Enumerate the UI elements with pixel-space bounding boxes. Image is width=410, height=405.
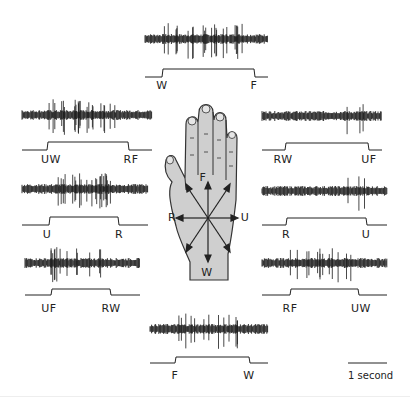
trace-left-2 [22,173,148,225]
movement-step-left-3 [25,289,140,295]
scale-bar-label: 1 second [348,370,393,381]
trace-right-3 [262,248,387,295]
hand-label-extension: W [201,266,212,279]
bottom-start-label: F [172,369,179,382]
right3-end-label: UW [351,302,371,315]
trace-right-1 [262,104,382,150]
right3-start-label: RF [283,302,298,315]
left3-start-label: UF [41,302,56,315]
hand-diagram [165,105,238,281]
neuron-recording-figure: F W R U W F UW RF RW UF U R R U UF RW RF… [0,0,410,405]
movement-step-left-2 [22,217,148,225]
movement-step-left-1 [22,142,152,150]
left1-end-label: RF [124,153,139,166]
hand-label-ulnar: U [241,211,250,224]
left2-end-label: R [115,228,123,241]
right1-start-label: RW [273,153,292,166]
right2-end-label: U [362,228,371,241]
movement-step-right-2 [262,218,387,225]
right1-end-label: UF [361,153,376,166]
top-end-label: F [251,79,258,92]
left3-end-label: RW [101,302,120,315]
trace-left-3 [25,247,140,295]
trace-top [145,23,268,77]
bottom-divider [0,396,410,397]
top-start-label: W [156,79,167,92]
movement-step-right-3 [262,289,387,295]
hand-label-radial: R [168,211,176,224]
right2-start-label: R [282,228,290,241]
trace-bottom [150,314,268,363]
trace-right-2 [262,176,387,225]
movement-step-bottom [150,357,268,363]
bottom-end-label: W [243,369,254,382]
figure-canvas [0,0,410,405]
movement-step-top [145,69,268,77]
trace-left-1 [22,99,152,150]
left1-start-label: UW [41,153,61,166]
movement-step-right-1 [262,143,382,150]
left2-start-label: U [43,228,52,241]
hand-label-flexion: F [200,171,207,184]
